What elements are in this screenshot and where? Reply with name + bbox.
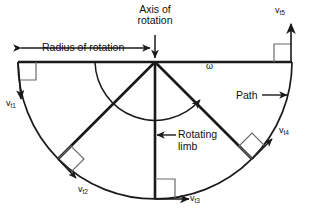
path-label: Path — [236, 90, 258, 101]
axis-of-rotation-label: Axis of rotation — [118, 4, 192, 26]
velocity-label-vt4-base: v — [279, 125, 284, 135]
right-angle-marker-vt2 — [58, 146, 84, 172]
radius-of-rotation-label: Radius of rotation — [42, 42, 124, 53]
rotating-limb-label-line1: Rotating — [178, 128, 217, 140]
rotation-diagram-svg — [0, 0, 310, 211]
velocity-arrow-vt2 — [58, 159, 76, 178]
velocity-label-vt4-sub: t4 — [284, 129, 289, 136]
velocity-label-vt1-sub: t1 — [11, 102, 16, 109]
velocity-label-vt5-sub: t5 — [280, 9, 285, 16]
right-angle-marker-vt4 — [239, 133, 265, 159]
velocity-label-vt5: vt5 — [275, 6, 285, 15]
rotating-limb-label-line2: limb — [178, 140, 197, 152]
velocity-label-vt2-sub: t2 — [83, 188, 88, 195]
velocity-label-vt3-base: v — [190, 193, 195, 203]
omega-label: ω — [206, 62, 213, 71]
limb-spoke-135 — [58, 62, 155, 159]
axis-of-rotation-label-line2: rotation — [137, 14, 172, 26]
rotating-limb-label: Rotating limb — [178, 128, 217, 153]
velocity-label-vt4: vt4 — [279, 126, 289, 135]
right-angle-marker-vt3 — [155, 179, 175, 199]
velocity-label-vt3-sub: t3 — [195, 197, 200, 204]
right-angle-marker-vt5 — [274, 44, 292, 62]
velocity-label-vt1-base: v — [6, 98, 11, 108]
velocity-label-vt2-base: v — [78, 184, 83, 194]
right-angle-marker-vt1 — [18, 62, 36, 80]
velocity-label-vt3: vt3 — [190, 194, 200, 203]
velocity-arrow-vt4 — [252, 139, 272, 159]
velocity-label-vt2: vt2 — [78, 185, 88, 194]
velocity-label-vt1: vt1 — [6, 99, 16, 108]
diagram-canvas: Axis of rotation Radius of rotation Path… — [0, 0, 310, 211]
velocity-label-vt5-base: v — [275, 5, 280, 15]
